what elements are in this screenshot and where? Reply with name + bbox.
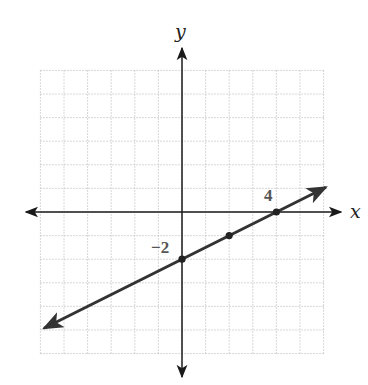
x-axis-label: x	[350, 200, 361, 222]
coordinate-plane: x y 4 −2	[0, 0, 368, 385]
data-point	[273, 208, 280, 215]
x-intercept-label: 4	[264, 186, 273, 205]
y-axis-label: y	[174, 20, 186, 42]
data-point	[226, 232, 233, 239]
y-intercept-label: −2	[151, 238, 169, 257]
data-point	[178, 256, 185, 263]
